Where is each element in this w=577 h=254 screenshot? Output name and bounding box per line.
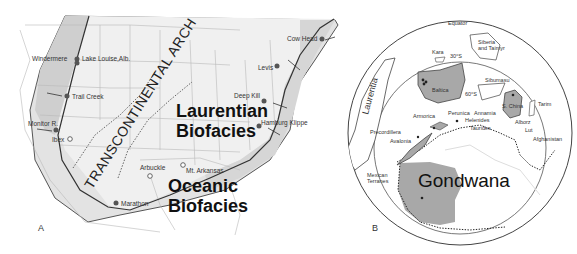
figure: TRANSCONTINENTAL ARCH Laurentian Biofaci… <box>0 0 577 254</box>
oceanic-label-line2: Biofacies <box>168 196 248 216</box>
label-marathon: Marathon <box>121 200 149 207</box>
locality-open-ibex <box>68 137 73 142</box>
label-hamburg: Hamburg Klippe <box>261 119 308 127</box>
label-mt-arkansas: Mt. Arkansas <box>186 167 224 174</box>
panel-b-globe: Equator 30°S 60°S Laurentia Kara Siberia… <box>345 20 572 245</box>
label-mexican-2: Terranes <box>367 178 389 184</box>
label-annamia: Annamia <box>474 110 497 116</box>
label-ibex: Ibex <box>52 136 65 143</box>
label-cow-head: Cow Head <box>287 35 318 42</box>
label-tarim: Tarim <box>538 101 552 107</box>
tarim-outline <box>529 100 535 116</box>
label-arbuckle: Arbuckle <box>140 164 166 171</box>
panel-label-a: A <box>38 223 44 233</box>
label-alborz: Alborz <box>515 119 531 125</box>
label-kara: Kara <box>432 49 445 55</box>
label-afghanistan: Afghanistan <box>533 136 562 142</box>
locality-dot-cow-head <box>320 37 325 42</box>
label-deep-kill: Deep Kill <box>234 92 261 100</box>
panel-label-b: B <box>372 223 378 233</box>
label-levis: Levis <box>258 64 274 71</box>
locality-dot-trail-creek <box>65 94 70 99</box>
label-60s: 60°S <box>465 91 477 97</box>
label-lut: Lut <box>525 127 533 133</box>
locality-open-arbuckle <box>148 174 153 179</box>
locality-dot-levis <box>275 64 280 69</box>
label-siberia-2: and Taimyr <box>478 45 505 51</box>
locality-dot-deep-kill <box>262 99 267 104</box>
label-baltica: Baltica <box>432 87 449 93</box>
label-gondwana: Gondwana <box>418 170 510 191</box>
label-avalonia: Avalonia <box>390 138 412 144</box>
locality-dot-monitor <box>54 128 59 133</box>
label-monitor: Monitor R. <box>28 120 58 127</box>
locality-open-mt-arkansas <box>181 163 186 168</box>
label-lake-louise: Lake Louise,Alb. <box>82 55 130 62</box>
label-equator: Equator <box>448 20 467 26</box>
label-30s: 30°S <box>450 53 462 59</box>
oceanic-label-line1: Oceanic <box>168 176 238 196</box>
label-perunica: Perunica <box>448 110 471 116</box>
label-trail-creek: Trail Creek <box>72 93 104 100</box>
label-s-china: S. China <box>502 103 524 109</box>
laurentian-label-line1: Laurentian <box>176 101 268 121</box>
kara-outline <box>435 57 445 62</box>
locality-dot-marathon <box>114 201 119 206</box>
panel-a-map: TRANSCONTINENTAL ARCH Laurentian Biofaci… <box>20 15 338 235</box>
laurentian-label-line2: Biofacies <box>176 121 256 141</box>
label-taurides: Taurides <box>470 125 491 131</box>
label-armorica: Armorica <box>413 113 436 119</box>
label-windermere: Windermere <box>32 55 68 62</box>
label-sibumasu: Sibumasu <box>485 77 509 83</box>
locality-dot-lake-louise <box>75 61 80 66</box>
label-helenides: Helenides <box>465 117 490 123</box>
label-precordillera: Precordillera <box>370 129 402 135</box>
